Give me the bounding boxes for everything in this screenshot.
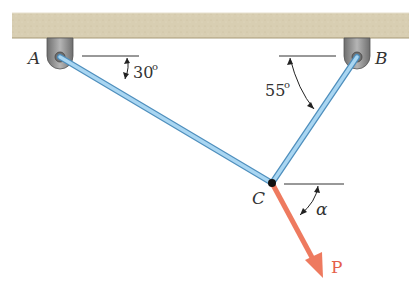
angle-label-30: 30 o [133, 61, 158, 82]
diagram-canvas: A B C 30 o 55 o α P [0, 0, 409, 291]
angle-arc-55 [287, 58, 314, 109]
angle-label-55: 55 o [265, 79, 290, 100]
angle-label-alpha: α [316, 199, 328, 219]
svg-text:55: 55 [265, 81, 285, 100]
label-b: B [374, 48, 388, 68]
force-arrow-p [272, 183, 323, 278]
svg-text:o: o [284, 79, 290, 90]
angle-arc-30 [123, 58, 130, 79]
label-c: C [252, 188, 265, 208]
svg-text:30: 30 [133, 63, 153, 82]
label-a: A [26, 48, 40, 68]
label-p: P [331, 257, 342, 277]
svg-text:o: o [152, 61, 158, 72]
ceiling [12, 13, 409, 38]
support-bracket-b [344, 38, 370, 69]
cable-ac [60, 57, 272, 183]
joint-c [268, 179, 276, 187]
cable-bc [272, 57, 357, 183]
